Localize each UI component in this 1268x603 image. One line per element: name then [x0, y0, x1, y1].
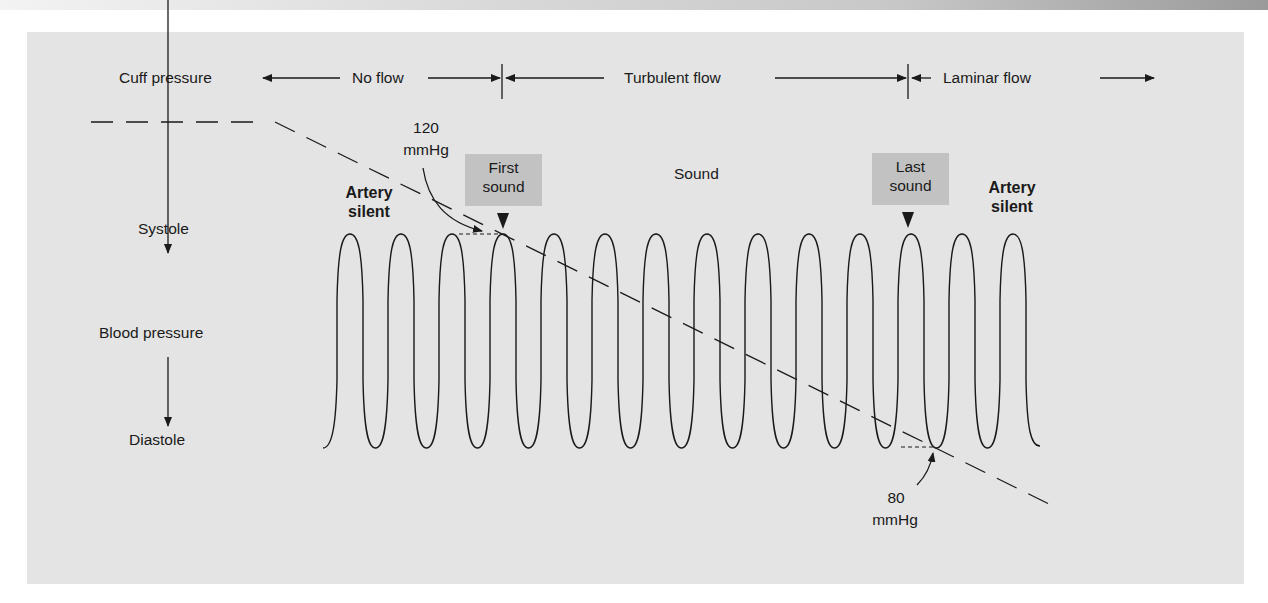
laminar-flow-label: Laminar flow: [943, 69, 1031, 87]
last-sound-line1: Last: [872, 157, 949, 176]
cuff-pressure-label: Cuff pressure: [119, 69, 212, 87]
systolic-value: 120: [398, 119, 454, 137]
turbulent-flow-label: Turbulent flow: [624, 69, 721, 87]
artery-silent-left-line1: Artery: [334, 183, 404, 202]
diastolic-value: 80: [870, 489, 922, 507]
last-sound-line2: sound: [872, 176, 949, 195]
first-sound-pointer-icon: [497, 213, 509, 229]
artery-silent-right-label: Artery silent: [977, 178, 1047, 216]
diastolic-unit: mmHg: [860, 511, 930, 529]
artery-silent-left-line2: silent: [334, 202, 404, 221]
artery-silent-right-line2: silent: [977, 197, 1047, 216]
artery-silent-right-line1: Artery: [977, 178, 1047, 197]
artery-silent-left-label: Artery silent: [334, 183, 404, 221]
sound-label: Sound: [674, 165, 719, 183]
systole-label: Systole: [138, 220, 189, 238]
last-sound-pointer-icon: [902, 212, 914, 228]
diastole-label: Diastole: [129, 431, 185, 449]
systolic-unit: mmHg: [392, 141, 460, 159]
blood-pressure-label: Blood pressure: [99, 324, 203, 342]
no-flow-label: No flow: [352, 69, 404, 87]
blood-pressure-wave: [323, 234, 1040, 448]
first-sound-line1: First: [465, 158, 542, 177]
diastolic-indicator: [901, 447, 933, 485]
last-sound-callout: Last sound: [872, 153, 949, 205]
first-sound-callout: First sound: [465, 154, 542, 206]
first-sound-line2: sound: [465, 177, 542, 196]
diagram-graphics: [0, 0, 1268, 603]
